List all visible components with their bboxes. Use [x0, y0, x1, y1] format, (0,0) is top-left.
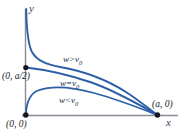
point-label-x-intercept: (a, 0): [152, 100, 173, 110]
point-marker-x-intercept: [155, 112, 160, 117]
curve-annotation-w-less-sub: 0: [75, 100, 78, 107]
x-axis-label: x: [166, 117, 171, 128]
curve-annotation-w-equal-sub: 0: [76, 83, 79, 90]
point-label-origin: (0, 0): [6, 120, 27, 130]
point-label-y-intercept: (0, a/2): [2, 72, 30, 82]
curve-w-greater-than-v0: [26, 9, 157, 115]
point-marker-origin: [23, 112, 28, 117]
pursuit-curves-figure: y x (0, a/2) (0, 0) (a, 0) w>v0 w=v0 w<v…: [0, 0, 187, 137]
figure-canvas: [0, 0, 187, 137]
point-marker-y-intercept: [23, 65, 28, 70]
y-axis-label: y: [29, 3, 34, 14]
curve-annotation-w-greater: w>v0: [63, 55, 82, 66]
curve-annotation-w-equal: w=v0: [60, 79, 79, 90]
curve-annotation-w-less: w<v0: [59, 96, 78, 107]
curve-annotation-w-greater-sub: 0: [79, 59, 82, 66]
